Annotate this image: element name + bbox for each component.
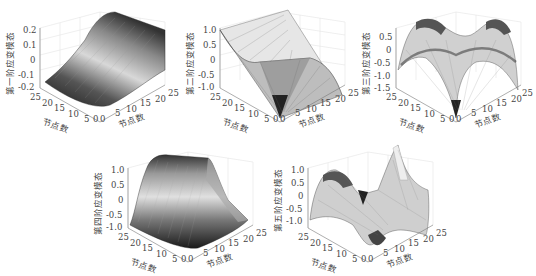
ztick: -0.5 (198, 70, 214, 80)
xtick: 5 (203, 248, 208, 258)
xtick: 15 (228, 238, 239, 248)
y-axis-label: 节点数 (221, 116, 250, 135)
ztick: 0.5 (291, 178, 305, 188)
x-axis-label: 节点数 (117, 111, 146, 130)
plot-mode4: 1.0 0.5 0 -0.5 -1.0 第四阶应变模态 25 20 15 10 … (88, 140, 268, 276)
xtick: 20 (243, 234, 254, 244)
ztick: 1.0 (203, 25, 217, 35)
ytick: 15 (54, 103, 65, 113)
xtick: 10 (306, 104, 317, 114)
xtick: 0 (280, 114, 285, 124)
ytick: 15 (234, 103, 245, 113)
ytick: 25 (30, 92, 41, 102)
surface-plot-mode2: 1.0 0.5 0 -0.5 -1.0 第二阶应变模态 25 20 15 10 … (180, 0, 360, 135)
ztick: 0 (118, 195, 123, 205)
ytick: 0 (273, 114, 278, 124)
ytick: 5 (352, 254, 357, 264)
ztick: 0.5 (203, 40, 217, 50)
ztick: 0 (30, 55, 35, 65)
ztick: 0.5 (111, 180, 125, 190)
ztick: -1.0 (286, 216, 302, 226)
plot-mode2: 1.0 0.5 0 -0.5 -1.0 第二阶应变模态 25 20 15 10 … (180, 0, 360, 135)
ytick: 20 (222, 98, 233, 108)
ztick: -0.5 (106, 210, 122, 220)
y-axis-label: 节点数 (397, 116, 426, 135)
xtick: 25 (168, 88, 179, 98)
ytick: 0 (449, 114, 454, 124)
ztick: 1.0 (111, 165, 125, 175)
ytick: 10 (156, 249, 167, 259)
plot-mode5: 1.0 0.5 0 -0.5 -1.0 第五阶应变模态 25 20 15 10 … (268, 140, 448, 276)
xtick: 5 (471, 108, 476, 118)
ytick: 20 (42, 98, 53, 108)
y-axis-label: 节点数 (129, 256, 158, 275)
x-axis-label: 节点数 (385, 251, 414, 270)
xtick: 0 (188, 254, 193, 264)
ztick: -0.1 (18, 70, 34, 80)
ztick: -0.5 (286, 204, 302, 214)
ztick: -1.0 (106, 222, 122, 232)
xtick: 0 (456, 114, 461, 124)
z-axis-label: 第四阶应变模态 (93, 172, 103, 235)
xtick: 15 (320, 98, 331, 108)
surface-plot-mode1: 0.2 0.1 0 -0.1 -0.2 第一阶应变模态 25 20 15 10 … (0, 0, 180, 135)
x-axis-label: 节点数 (205, 251, 234, 270)
xtick: 10 (126, 104, 137, 114)
z-axis-label: 第一阶应变模态 (5, 32, 15, 95)
xtick: 15 (408, 238, 419, 248)
xtick: 25 (522, 88, 533, 98)
xtick: 10 (214, 244, 225, 254)
ztick: -0.2 (18, 82, 34, 92)
y-axis-label: 节点数 (41, 116, 70, 135)
ytick: 15 (410, 103, 421, 113)
x-axis-label: 节点数 (297, 111, 326, 130)
xtick: 0 (100, 114, 105, 124)
ytick: 25 (210, 92, 221, 102)
ytick: 10 (424, 109, 435, 119)
xtick: 20 (511, 94, 522, 104)
z-axis-label: 第五阶应变模态 (273, 169, 283, 232)
z-axis-label: 第三阶应变模态 (361, 32, 371, 95)
ytick: 0 (361, 254, 366, 264)
xtick: 20 (155, 94, 166, 104)
ytick: 25 (118, 232, 129, 242)
ztick: 0.5 (379, 32, 393, 42)
ztick: 0 (386, 45, 391, 55)
xtick: 0 (368, 254, 373, 264)
ytick: 0 (181, 254, 186, 264)
xtick: 5 (383, 248, 388, 258)
ytick: 25 (386, 92, 397, 102)
xtick: 10 (394, 244, 405, 254)
xtick: 25 (436, 228, 447, 238)
ztick: -1.0 (374, 71, 390, 81)
y-axis-label: 节点数 (309, 256, 338, 275)
xtick: 25 (256, 228, 267, 238)
ytick: 5 (84, 114, 89, 124)
xtick: 15 (496, 98, 507, 108)
ztick: 1.0 (291, 165, 305, 175)
ytick: 20 (310, 238, 321, 248)
surface-plot-mode3: 0.5 0 -0.5 -1.0 -1.5 第三阶应变模态 25 20 15 10… (356, 0, 536, 135)
ytick: 10 (68, 109, 79, 119)
ztick: 0 (298, 191, 303, 201)
ytick: 10 (248, 109, 259, 119)
plot-mode1: 0.2 0.1 0 -0.1 -0.2 第一阶应变模态 25 20 15 10 … (0, 0, 180, 135)
ztick: 0.1 (23, 40, 37, 50)
ytick: 5 (172, 254, 177, 264)
ztick: 0.2 (23, 25, 37, 35)
xtick: 5 (295, 108, 300, 118)
xtick: 20 (335, 94, 346, 104)
xtick: 10 (482, 104, 493, 114)
ztick: 0 (210, 55, 215, 65)
surface-plot-mode4: 1.0 0.5 0 -0.5 -1.0 第四阶应变模态 25 20 15 10 … (88, 140, 268, 276)
ytick: 15 (142, 243, 153, 253)
ytick: 25 (298, 232, 309, 242)
ztick: -0.5 (374, 58, 390, 68)
ytick: 20 (398, 98, 409, 108)
z-axis-label: 第二阶应变模态 (185, 32, 195, 95)
ytick: 5 (264, 114, 269, 124)
surface-plot-mode5: 1.0 0.5 0 -0.5 -1.0 第五阶应变模态 25 20 15 10 … (268, 140, 448, 276)
ztick: -1.0 (198, 82, 214, 92)
xtick: 20 (423, 234, 434, 244)
xtick: 15 (140, 98, 151, 108)
